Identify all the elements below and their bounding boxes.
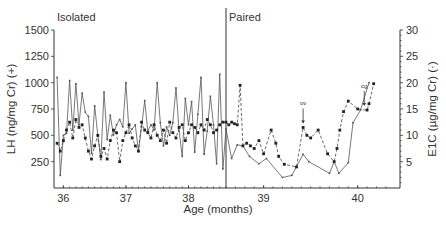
e1c-data-point: [103, 147, 106, 150]
e1c-data-point: [277, 155, 280, 158]
lh-data-point: [106, 139, 108, 141]
lh-data-point: [119, 119, 121, 121]
e1c-data-point: [209, 123, 212, 126]
y-ticks-left: 250500750100012501500: [25, 24, 54, 168]
lh-data-point: [150, 124, 152, 126]
annotation-label: ov: [300, 100, 306, 106]
lh-data-point: [175, 87, 177, 89]
e1c-data-point: [65, 129, 68, 132]
e1c-data-point: [62, 139, 65, 142]
e1c-data-point: [121, 139, 124, 142]
lh-data-point: [194, 151, 196, 153]
e1c-data-point: [171, 131, 174, 134]
lh-data-point: [100, 159, 102, 161]
x-tick-label: 40: [352, 192, 364, 204]
e1c-data-point: [190, 123, 193, 126]
lh-data-point: [75, 83, 77, 85]
lh-data-point: [266, 158, 268, 160]
e1c-data-point: [118, 160, 121, 163]
e1c-data-point: [203, 129, 206, 132]
y-left-tick-label: 1500: [25, 24, 49, 36]
e1c-data-point: [366, 109, 369, 112]
lh-data-point: [160, 122, 162, 124]
e1c-data-point: [233, 122, 236, 125]
e1c-data-point: [165, 142, 168, 145]
arrow-down-icon: [301, 120, 305, 123]
lh-data-point: [131, 128, 133, 130]
lh-data-point: [213, 124, 215, 126]
e1c-data-point: [302, 126, 305, 129]
e1c-data-point: [317, 129, 320, 132]
e1c-data-point: [87, 150, 90, 153]
e1c-data-point: [78, 126, 81, 129]
e1c-data-point: [181, 123, 184, 126]
phase-label-isolated: Isolated: [57, 11, 96, 23]
e1c-data-point: [206, 118, 209, 121]
lh-data-point: [222, 168, 224, 170]
e1c-data-point: [90, 158, 93, 161]
y-left-tick-label: 500: [31, 129, 49, 141]
lh-data-point: [69, 80, 71, 82]
e1c-data-point: [175, 137, 178, 140]
lh-data-point: [113, 135, 115, 137]
e1c-data-point: [93, 144, 96, 147]
lh-data-point: [231, 158, 233, 160]
lh-data-point: [185, 98, 187, 100]
lh-data-point: [282, 177, 284, 179]
e1c-data-point: [178, 126, 181, 129]
e1c-data-point: [74, 118, 77, 121]
e1c-data-point: [153, 123, 156, 126]
e1c-data-point: [196, 131, 199, 134]
lh-data-point: [88, 116, 90, 118]
e1c-data-point: [71, 137, 74, 140]
lh-data-point: [181, 156, 183, 158]
lh-data-point: [72, 129, 74, 131]
e1c-data-point: [81, 123, 84, 126]
right-y-axis-label: E1C (µg/mg Cr) (·): [426, 61, 438, 157]
lh-data-point: [63, 135, 65, 137]
e1c-data-point: [368, 102, 371, 105]
lh-data-point: [291, 175, 293, 177]
e1c-data-point: [309, 137, 312, 140]
e1c-data-point: [159, 139, 162, 142]
lh-data-point: [210, 96, 212, 98]
lh-data-point: [94, 105, 96, 107]
e1c-data-point: [336, 147, 339, 150]
lh-data-point: [191, 101, 193, 103]
e1c-data-point: [212, 131, 215, 134]
lh-data-point: [169, 135, 171, 137]
arrow-down-icon: [362, 103, 366, 106]
e1c-data-point: [333, 160, 336, 163]
lh-data-point: [308, 161, 310, 163]
lh-data-point: [163, 145, 165, 147]
lh-data-point: [258, 163, 260, 165]
e1c-data-point: [230, 121, 233, 124]
e1c-data-point: [200, 123, 203, 126]
y-right-tick-label: 25: [406, 50, 418, 62]
lh-data-point: [144, 100, 146, 102]
e1c-data-point: [227, 123, 230, 126]
e1c-data-point: [270, 129, 273, 132]
lh-data-point: [338, 172, 340, 174]
annotation-label: cg: [361, 83, 367, 89]
e1c-data-point: [134, 144, 137, 147]
y-left-tick-label: 1250: [25, 50, 49, 62]
lh-data-point: [84, 111, 86, 113]
lh-series-line: [57, 74, 369, 177]
lh-data-point: [116, 124, 118, 126]
x-tick-label: 37: [120, 192, 132, 204]
lh-data-point: [188, 124, 190, 126]
e1c-data-point: [249, 144, 252, 147]
e1c-data-point: [162, 129, 165, 132]
e1c-data-point: [100, 155, 103, 158]
e1c-data-point: [347, 100, 350, 103]
phase-label-paired: Paired: [229, 11, 261, 23]
lh-data-point: [166, 126, 168, 128]
e1c-data-point: [274, 142, 277, 145]
e1c-data-point: [356, 108, 359, 111]
y-right-tick-label: 15: [406, 103, 418, 115]
lh-data-point: [109, 115, 111, 117]
e1c-data-point: [150, 137, 153, 140]
lh-data-point: [203, 153, 205, 155]
left-y-axis-label: LH (ng/mg Cr) (+): [5, 64, 17, 155]
